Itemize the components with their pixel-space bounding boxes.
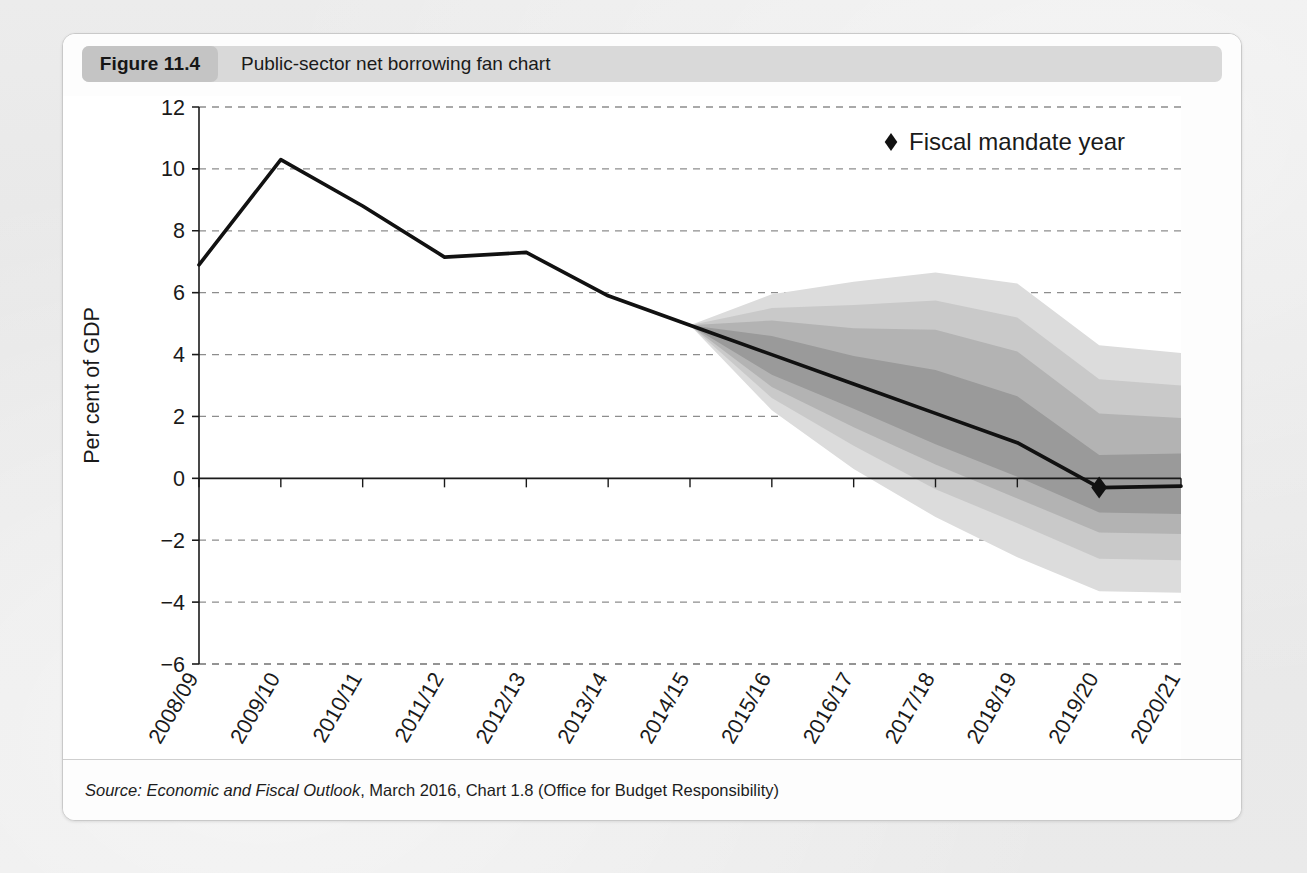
source-note: Source: Economic and Fiscal Outlook, Mar…: [85, 781, 779, 800]
figure-source-footer: Source: Economic and Fiscal Outlook, Mar…: [63, 759, 1241, 820]
figure-header: Figure 11.4 Public-sector net borrowing …: [63, 34, 1241, 97]
y-tick-label: −4: [160, 591, 185, 615]
source-details: , March 2016, Chart 1.8 (Office for Budg…: [360, 781, 779, 799]
figure-plot-area: 121086420−2−4−6 2008/092009/102010/11201…: [63, 96, 1241, 760]
y-tick-label: 2: [173, 405, 185, 429]
y-tick-label: −2: [160, 529, 185, 553]
source-label: Source:: [85, 781, 142, 799]
fan-chart: 121086420−2−4−6 2008/092009/102010/11201…: [63, 96, 1241, 760]
figure-title: Public-sector net borrowing fan chart: [241, 46, 550, 82]
y-axis-title-text: Per cent of GDP: [80, 307, 104, 464]
source-publication: Economic and Fiscal Outlook: [146, 781, 360, 799]
y-tick-label: 12: [161, 96, 185, 120]
chart-legend: Fiscal mandate year: [885, 128, 1125, 155]
figure-card: Figure 11.4 Public-sector net borrowing …: [62, 33, 1242, 821]
y-tick-label: 10: [161, 157, 185, 181]
y-tick-label: 4: [173, 343, 185, 367]
legend-label: Fiscal mandate year: [909, 128, 1125, 155]
y-tick-label: 8: [173, 219, 185, 243]
y-tick-label: 6: [173, 281, 185, 305]
y-axis-title: Per cent of GDP: [80, 307, 104, 464]
y-tick-label: 0: [173, 467, 185, 491]
figure-number-badge: Figure 11.4: [82, 46, 218, 82]
